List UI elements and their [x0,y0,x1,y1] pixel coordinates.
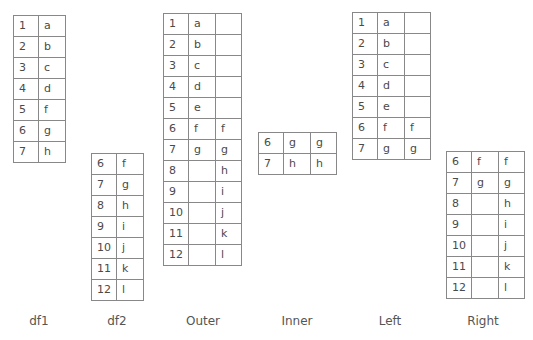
table-row: 7gg [164,140,242,161]
table-cell [189,224,216,245]
table-cell: i [499,215,525,236]
table-cell: b [189,35,216,56]
table-cell: 4 [164,77,189,98]
table-cell: k [117,259,144,280]
table-cell: k [216,224,242,245]
table-cell: 7 [92,175,117,196]
table-row: 11k [92,259,144,280]
table-cell: 6 [447,152,472,173]
table-cell [216,56,242,77]
table-cell: 3 [14,58,39,79]
table-cell: 5 [14,100,39,121]
left-label: Left [350,314,430,328]
table-cell: 9 [92,217,117,238]
table-cell: d [189,77,216,98]
table-cell: 11 [164,224,189,245]
table-cell: 4 [353,76,378,97]
table-cell: 6 [164,119,189,140]
table-cell [472,194,499,215]
right-join-table: 6ff7gg8h9i10j11k12l [446,151,525,299]
table-cell: g [189,140,216,161]
outer-label: Outer [163,314,243,328]
table-cell: 6 [353,118,378,139]
table-cell: f [378,118,405,139]
table-cell: i [117,217,144,238]
table-row: 3c [14,58,66,79]
table-cell: f [499,152,525,173]
table-cell [405,13,431,34]
table-cell [472,215,499,236]
table-cell: f [189,119,216,140]
table-cell: 10 [92,238,117,259]
table-cell: 3 [164,56,189,77]
table-cell: i [216,182,242,203]
table-cell: g [499,173,525,194]
table-cell: 11 [92,259,117,280]
table-cell: 9 [447,215,472,236]
table-cell: a [189,14,216,35]
table-row: 6ff [353,118,431,139]
table-cell: 6 [14,121,39,142]
table-cell: f [216,119,242,140]
table-cell: g [216,140,242,161]
table-cell: h [499,194,525,215]
table-cell [216,98,242,119]
table-row: 6g [14,121,66,142]
table-cell: 7 [447,173,472,194]
table-cell: f [117,154,144,175]
table-cell: h [216,161,242,182]
table-cell: g [311,133,337,154]
table-cell [405,34,431,55]
table-row: 10j [92,238,144,259]
table-cell: b [39,37,66,58]
table-cell: c [39,58,66,79]
table-cell: g [117,175,144,196]
table-cell: e [378,97,405,118]
table-row: 2b [164,35,242,56]
table-row: 9i [92,217,144,238]
table-cell: c [378,55,405,76]
table-row: 3c [164,56,242,77]
table-cell: b [378,34,405,55]
table-row: 4d [164,77,242,98]
table-cell: h [284,154,311,175]
table-cell: g [284,133,311,154]
table-cell: 3 [353,55,378,76]
table-cell [405,55,431,76]
right-label: Right [443,314,523,328]
table-cell: 10 [164,203,189,224]
table-cell: 1 [164,14,189,35]
table-cell: e [189,98,216,119]
table-cell: 12 [447,278,472,299]
table-cell [405,76,431,97]
table-cell: a [39,16,66,37]
table-cell [472,236,499,257]
table-cell: 9 [164,182,189,203]
table-cell: 7 [14,142,39,163]
df1-label: df1 [0,314,79,328]
table-cell: 8 [92,196,117,217]
table-cell: 12 [164,245,189,266]
table-row: 7gg [447,173,525,194]
table-cell: a [378,13,405,34]
table-cell [216,77,242,98]
table-cell: 2 [353,34,378,55]
table-cell [189,203,216,224]
table-cell: c [189,56,216,77]
table-cell: 1 [353,13,378,34]
table-cell: l [499,278,525,299]
table-cell: 11 [447,257,472,278]
table-cell: j [499,236,525,257]
table-cell [189,161,216,182]
table-row: 4d [14,79,66,100]
table-cell: 5 [353,97,378,118]
table-cell: g [378,139,405,160]
table-row: 6ff [164,119,242,140]
table-cell: 7 [164,140,189,161]
table-row: 2b [353,34,431,55]
outer-join-table: 1a2b3c4d5e6ff7gg8h9i10j11k12l [163,13,242,266]
table-row: 9i [447,215,525,236]
table-cell: 1 [14,16,39,37]
table-row: 5e [353,97,431,118]
table-cell: g [405,139,431,160]
